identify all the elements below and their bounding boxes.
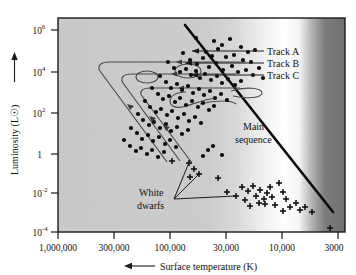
star-dot bbox=[211, 144, 215, 148]
star-dot bbox=[176, 116, 180, 120]
star-dot bbox=[139, 146, 143, 150]
star-dot bbox=[158, 74, 162, 78]
star-dot bbox=[216, 47, 220, 51]
star-dot bbox=[187, 119, 191, 123]
star-dot bbox=[175, 125, 179, 129]
y-tick-label-1: 1 bbox=[37, 150, 42, 160]
star-dot bbox=[257, 66, 261, 70]
star-dot bbox=[147, 123, 151, 127]
star-dot bbox=[239, 79, 243, 83]
star-dot bbox=[168, 138, 172, 142]
svg-text:10: 10 bbox=[33, 228, 43, 238]
star-dot bbox=[141, 118, 145, 122]
svg-text:4: 4 bbox=[42, 65, 46, 72]
star-dot bbox=[197, 87, 201, 91]
star-dot bbox=[143, 99, 147, 103]
star-dot bbox=[224, 55, 228, 59]
star-dot bbox=[145, 152, 149, 156]
star-dot bbox=[163, 142, 167, 146]
star-dot bbox=[151, 139, 155, 143]
star-dot bbox=[152, 120, 156, 124]
star-dot bbox=[170, 109, 174, 113]
star-dot bbox=[241, 58, 245, 62]
star-dot bbox=[175, 82, 179, 86]
star-dot bbox=[236, 70, 240, 74]
y-axis-ticks bbox=[51, 30, 58, 232]
x-tick-label-30000: 30,000 bbox=[213, 243, 239, 253]
svg-text:10: 10 bbox=[33, 26, 43, 36]
star-dot bbox=[169, 86, 173, 90]
star-dot bbox=[191, 91, 195, 95]
svg-text:-2: -2 bbox=[42, 186, 48, 193]
star-dot bbox=[210, 54, 214, 58]
star-dot bbox=[180, 132, 184, 136]
star-dot bbox=[212, 39, 216, 43]
main-sequence-label: Main bbox=[243, 121, 264, 132]
star-dot bbox=[174, 145, 178, 149]
star-dot bbox=[220, 81, 224, 85]
star-dot bbox=[134, 149, 138, 153]
star-dot bbox=[164, 80, 168, 84]
star-dot bbox=[230, 64, 234, 68]
star-dot bbox=[172, 66, 176, 70]
white-dwarfs-label: White bbox=[139, 187, 164, 198]
star-dot bbox=[219, 92, 223, 96]
star-dot bbox=[225, 98, 229, 102]
star-dot bbox=[184, 67, 188, 71]
x-tick-label-100000: 100,000 bbox=[155, 243, 186, 253]
star-dot bbox=[206, 148, 210, 152]
star-dot bbox=[190, 99, 194, 103]
y-tick-label-1e6: 10 6 bbox=[33, 23, 47, 36]
star-dot bbox=[220, 43, 224, 47]
x-tick-label-300000: 300,000 bbox=[99, 243, 130, 253]
star-dot bbox=[157, 135, 161, 139]
svg-text:10: 10 bbox=[33, 68, 43, 78]
star-dot bbox=[226, 77, 230, 81]
star-dot bbox=[198, 76, 202, 80]
star-dot bbox=[158, 126, 162, 130]
star-dot bbox=[165, 113, 169, 117]
star-dot bbox=[208, 89, 212, 93]
star-dot bbox=[196, 105, 200, 109]
y-tick-label-1e2: 10 2 bbox=[33, 106, 46, 119]
star-dot bbox=[136, 112, 140, 116]
star-dot bbox=[207, 108, 211, 112]
star-dot bbox=[213, 96, 217, 100]
x-tick-label-3000: 3000 bbox=[325, 243, 344, 253]
track-a-label: Track A bbox=[267, 46, 300, 57]
star-dot bbox=[202, 93, 206, 97]
star-dot bbox=[207, 65, 211, 69]
star-dot bbox=[181, 51, 185, 55]
hr-diagram-chart: Track A Track B Track C Main sequence Wh… bbox=[0, 0, 356, 275]
svg-text:6: 6 bbox=[42, 23, 46, 30]
star-dot bbox=[166, 60, 170, 64]
star-dot bbox=[173, 100, 177, 104]
star-dot bbox=[239, 45, 243, 49]
star-dot bbox=[129, 126, 133, 130]
star-dot bbox=[209, 78, 213, 82]
x-tick-label-1000000: 1,000,000 bbox=[39, 243, 77, 253]
star-dot bbox=[201, 101, 205, 105]
star-dot bbox=[167, 94, 171, 98]
star-dot bbox=[194, 36, 198, 40]
star-dot bbox=[201, 154, 205, 158]
star-dot bbox=[122, 138, 126, 142]
star-dot bbox=[159, 107, 163, 111]
y-tick-label-1e4: 10 4 bbox=[33, 65, 47, 78]
y-tick-label-1e-4: 10 -4 bbox=[33, 225, 49, 238]
star-dot bbox=[186, 128, 190, 132]
svg-text:10: 10 bbox=[33, 109, 43, 119]
star-dot bbox=[146, 133, 150, 137]
track-b-label: Track B bbox=[267, 58, 299, 69]
star-dot bbox=[228, 37, 232, 41]
y-axis-title: Luminosity (L☉) bbox=[9, 105, 21, 175]
y-axis-title-arrow bbox=[11, 52, 17, 82]
white-dwarfs-label-line2: dwarfs bbox=[137, 200, 164, 211]
star-dot bbox=[193, 115, 197, 119]
star-dot bbox=[148, 105, 152, 109]
svg-text:10: 10 bbox=[33, 189, 43, 199]
star-dot bbox=[156, 155, 160, 159]
star-dot bbox=[161, 97, 165, 101]
star-dot bbox=[220, 153, 224, 157]
star-dot bbox=[180, 88, 184, 92]
